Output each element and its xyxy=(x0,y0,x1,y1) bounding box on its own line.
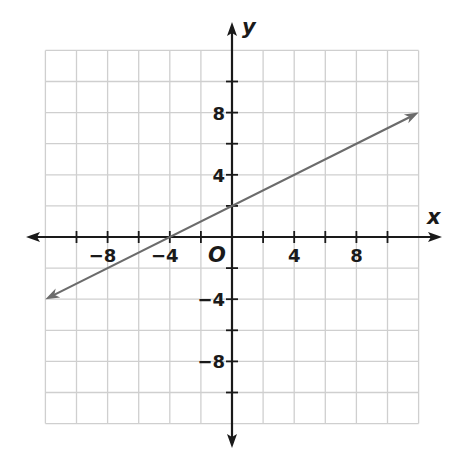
x-tick-label: −8 xyxy=(89,245,117,266)
y-axis-label: y xyxy=(242,15,257,39)
y-tick-label: −4 xyxy=(197,289,225,310)
coordinate-plane: −8−44884−4−8 x y O xyxy=(0,0,458,461)
x-axis-label: x xyxy=(426,205,442,229)
y-tick-label: 8 xyxy=(212,103,225,124)
x-tick-label: 4 xyxy=(288,245,301,266)
x-tick-label: −4 xyxy=(151,245,179,266)
axes xyxy=(26,22,442,448)
x-tick-label: 8 xyxy=(350,245,363,266)
y-tick-label: 4 xyxy=(212,165,225,186)
y-tick-label: −8 xyxy=(197,351,225,372)
origin-label: O xyxy=(208,243,226,267)
